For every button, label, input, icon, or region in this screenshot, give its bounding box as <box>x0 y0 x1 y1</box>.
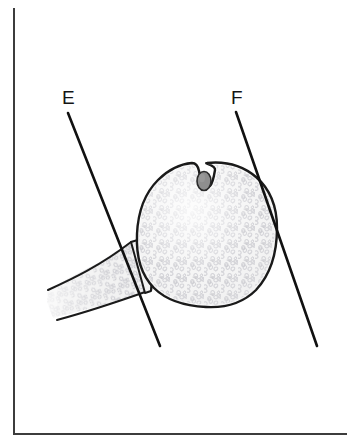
figure-root: E F <box>0 0 347 440</box>
label-e: E <box>62 87 75 108</box>
anatomical-diagram: E F <box>0 0 347 440</box>
notch-nodule-highlight <box>199 174 205 182</box>
label-f: F <box>231 87 243 108</box>
